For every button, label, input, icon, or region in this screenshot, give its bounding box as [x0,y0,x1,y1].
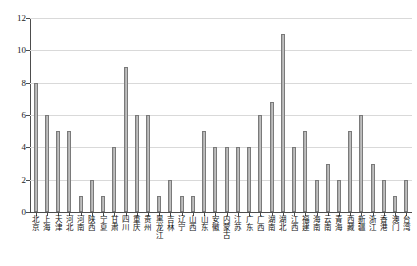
bar [101,196,105,212]
bar [56,131,60,212]
x-tick-label: 安徽 [211,216,220,232]
bar [45,115,49,212]
bar [146,115,150,212]
bar [337,180,341,212]
x-tick-label: 山西 [188,216,197,232]
bar [157,196,161,212]
x-tick-label: 四川 [121,216,130,232]
bar [236,147,240,212]
bar [371,164,375,213]
bar [90,180,94,212]
x-tick-label: 山东 [200,216,209,232]
bar [213,147,217,212]
x-tick-label: 青海 [334,216,343,232]
x-tick-label: 西藏 [346,216,355,232]
y-tick-label: 8 [22,78,27,87]
bar [393,196,397,212]
x-axis-labels: 北京上海天津河北河南陕西宁夏甘肃四川重庆贵州黑龙江吉林辽宁山西山东安徽内蒙古江苏… [30,216,412,266]
x-tick-label: 新疆 [357,216,366,232]
x-tick-label: 香港 [379,216,388,232]
y-tick-label: 6 [22,111,27,120]
bar [270,102,274,212]
y-tick-label: 4 [22,143,27,152]
bar [135,115,139,212]
bar-chart: 024681012 北京上海天津河北河南陕西宁夏甘肃四川重庆贵州黑龙江吉林辽宁山… [0,0,417,266]
y-tick-label: 0 [22,208,27,217]
bar [303,131,307,212]
x-tick-label: 浙江 [368,216,377,232]
bar [281,34,285,212]
y-tick-label: 2 [22,175,27,184]
x-tick-label: 广东 [245,216,254,232]
x-tick-label: 宁夏 [99,216,108,232]
y-tick-mark [26,212,30,213]
bar [247,147,251,212]
bars-layer [30,18,412,212]
x-axis-line [30,212,412,213]
x-tick-label: 海南 [312,216,321,232]
x-tick-label: 台湾 [402,216,411,232]
x-tick-label: 辽宁 [177,216,186,232]
bar [225,147,229,212]
bar [348,131,352,212]
bar [382,180,386,212]
x-tick-label: 北京 [31,216,40,232]
bar [359,115,363,212]
bar [292,147,296,212]
bar [168,180,172,212]
x-tick-label: 河北 [65,216,74,232]
x-tick-label: 黑龙江 [155,216,164,239]
bar [326,164,330,213]
bar [34,83,38,212]
bar [404,180,408,212]
x-tick-label: 福建 [301,216,310,232]
x-tick-label: 陕西 [87,216,96,232]
x-tick-label: 天津 [54,216,63,232]
x-tick-label: 上海 [42,216,51,232]
bar [180,196,184,212]
x-tick-label: 内蒙古 [222,216,231,239]
y-tick-label: 12 [17,14,26,23]
x-tick-label: 贵州 [143,216,152,232]
x-tick-label: 湖南 [267,216,276,232]
bar [112,147,116,212]
x-tick-label: 湖北 [278,216,287,232]
x-tick-label: 重庆 [132,216,141,232]
bar [315,180,319,212]
bar [79,196,83,212]
x-tick-label: 吉林 [166,216,175,232]
bar [258,115,262,212]
bar [67,131,71,212]
x-tick-label: 甘肃 [110,216,119,232]
bar [191,196,195,212]
x-tick-label: 云南 [323,216,332,232]
x-tick-label: 江西 [290,216,299,232]
x-tick-label: 河南 [76,216,85,232]
bar [202,131,206,212]
x-tick-label: 江苏 [233,216,242,232]
x-tick-label: 澳门 [391,216,400,232]
x-tick-label: 广西 [256,216,265,232]
y-tick-label: 10 [17,46,26,55]
bar [124,67,128,213]
